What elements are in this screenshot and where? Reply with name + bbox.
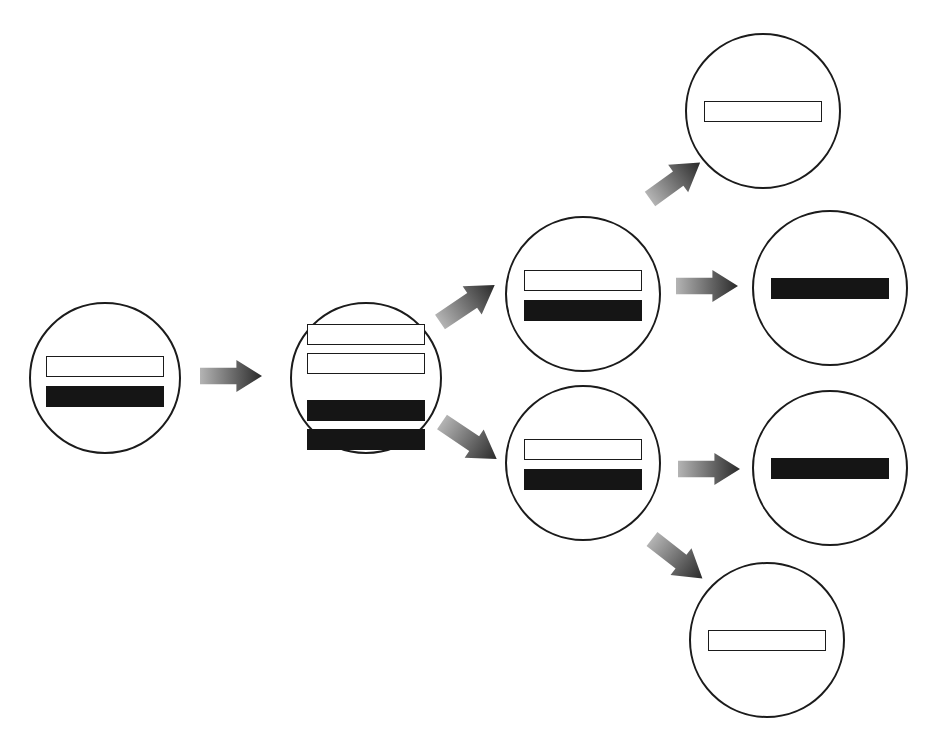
bar-black (307, 400, 425, 421)
bar-black (46, 386, 164, 407)
arrow-right-2-icon (676, 270, 738, 302)
bar-group (31, 356, 179, 407)
bar-white (46, 356, 164, 377)
bar-white (708, 630, 826, 651)
bar-white (307, 353, 425, 374)
arrow-right-3-icon (678, 453, 740, 485)
bar-white (704, 101, 822, 122)
node-lower-black-bar-cell[interactable] (752, 390, 908, 546)
node-start-cell[interactable] (29, 302, 181, 454)
bar-group (507, 439, 659, 490)
bar-group (292, 324, 440, 450)
bar-white (307, 324, 425, 345)
bar-group (507, 270, 659, 321)
bar-black (524, 469, 642, 490)
node-upper-black-bar-cell[interactable] (752, 210, 908, 366)
node-replicated-cell[interactable] (290, 302, 442, 454)
arrow-up-right-1-icon (430, 271, 504, 336)
arrow-right-1-icon (200, 360, 262, 392)
bar-white (524, 270, 642, 291)
bar-black (307, 429, 425, 450)
bar-group (687, 101, 839, 122)
bar-black (771, 278, 889, 299)
node-upper-daughter-cell[interactable] (505, 216, 661, 372)
bar-group (754, 278, 906, 299)
arrow-down-right-1-icon (432, 408, 506, 473)
node-lower-daughter-cell[interactable] (505, 385, 661, 541)
arrow-up-right-2-icon (640, 149, 710, 213)
node-top-white-bar-cell[interactable] (685, 33, 841, 189)
arrow-down-right-2-icon (642, 526, 713, 592)
bar-black (524, 300, 642, 321)
bar-white (524, 439, 642, 460)
bar-black (771, 458, 889, 479)
bar-group (691, 630, 843, 651)
bar-group (754, 458, 906, 479)
node-bottom-white-bar-cell[interactable] (689, 562, 845, 718)
diagram-canvas (0, 0, 934, 747)
